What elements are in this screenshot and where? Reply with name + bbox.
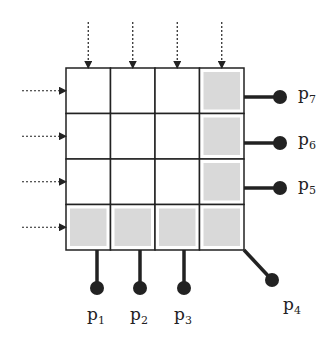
port-dot-icon bbox=[90, 281, 104, 295]
grid-cell bbox=[111, 159, 156, 205]
grid-cell bbox=[155, 68, 200, 114]
port-dot-icon bbox=[273, 90, 287, 104]
grid-diagram bbox=[0, 0, 332, 339]
shaded-cell bbox=[115, 209, 152, 247]
shaded-cell bbox=[204, 209, 241, 247]
grid-cell bbox=[66, 68, 111, 114]
port-dot-icon bbox=[265, 273, 279, 287]
port-label-p2: p2 bbox=[130, 306, 148, 326]
port-label-p1: p1 bbox=[87, 306, 105, 326]
port-label-p4: p4 bbox=[283, 296, 301, 316]
port-dot-icon bbox=[133, 281, 147, 295]
port-label-p6: p6 bbox=[298, 131, 316, 151]
shaded-cell bbox=[204, 72, 241, 110]
port-dot-icon bbox=[273, 181, 287, 195]
grid-cell bbox=[155, 159, 200, 205]
grid-cell bbox=[155, 114, 200, 160]
port-dot-icon bbox=[273, 136, 287, 150]
grid-cell bbox=[111, 68, 156, 114]
grid-cell bbox=[111, 114, 156, 160]
grid-cell bbox=[66, 114, 111, 160]
shaded-cell bbox=[204, 163, 241, 201]
port-label-p5: p5 bbox=[298, 176, 316, 196]
grid-cells bbox=[66, 68, 244, 250]
shaded-cell bbox=[204, 118, 241, 156]
shaded-cell bbox=[70, 209, 107, 247]
port-label-p3: p3 bbox=[174, 306, 192, 326]
port-label-p7: p7 bbox=[298, 85, 316, 105]
shaded-cell bbox=[159, 209, 196, 247]
grid-cell bbox=[66, 159, 111, 205]
port-dot-icon bbox=[177, 281, 191, 295]
